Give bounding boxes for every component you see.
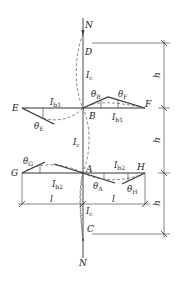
node-label-d: D <box>84 47 92 57</box>
node-label-a: A <box>85 164 93 174</box>
load-label-top: N <box>84 20 94 30</box>
node-label-h: H <box>136 162 145 172</box>
node-label-b: B <box>88 111 96 121</box>
load-label-bottom: N <box>78 258 88 268</box>
span-label-right: l <box>112 194 115 204</box>
rotation-label-g: θG <box>23 156 33 167</box>
height-label-upper: h <box>152 72 162 78</box>
axial-load-arrow-top <box>82 30 85 36</box>
rotation-label-f: θF <box>118 89 127 100</box>
rotation-label-e: θE <box>34 121 44 132</box>
rotation-label-a: θA <box>93 181 103 192</box>
upper-beam-stiffness-right: Ib1 <box>111 112 123 123</box>
upper-beam-stiffness-left: Ib1 <box>49 97 61 108</box>
node-label-e: E <box>11 103 19 113</box>
rotation-label-b: θB <box>91 89 101 100</box>
height-label-lower: h <box>152 200 162 206</box>
column-stiffness-lower: Ic <box>85 206 93 217</box>
span-label-left: l <box>50 194 53 204</box>
node-label-c: C <box>87 224 94 234</box>
column-stiffness-middle: Ic <box>72 137 80 148</box>
column-stiffness-upper: Ic <box>85 70 93 81</box>
beam-deflection-left-upper <box>43 108 83 120</box>
node-label-g: G <box>11 168 18 178</box>
rotation-line-a-left <box>54 164 83 173</box>
lower-beam-stiffness-left: Ib2 <box>51 179 63 190</box>
height-label-middle: h <box>152 137 162 143</box>
rotation-line-a <box>83 173 115 183</box>
rotation-label-h: θH <box>127 184 137 195</box>
lower-beam-stiffness-right: Ib2 <box>113 160 125 171</box>
node-label-f: F <box>144 99 152 109</box>
frame-diagram: N N D B A C E F G H Ic Ic Ic Ib1 Ib1 Ib2… <box>0 0 182 282</box>
